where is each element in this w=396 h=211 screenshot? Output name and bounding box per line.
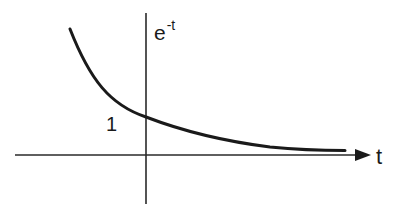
y-axis-label: e-t <box>154 22 175 43</box>
diagram-canvas <box>0 0 396 211</box>
x-axis-label: t <box>376 146 382 168</box>
x-axis-arrowhead-icon <box>355 149 371 161</box>
intercept-label: 1 <box>106 114 117 134</box>
